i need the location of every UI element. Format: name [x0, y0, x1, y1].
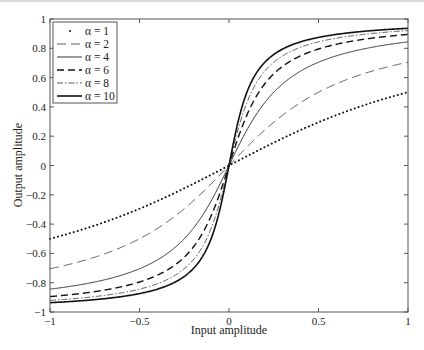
- legend-label: α = 1: [85, 25, 109, 37]
- y-axis-label: Output amplitude: [11, 123, 25, 207]
- chart: −1−0.500.51 −1−0.8−0.6−0.4−0.200.20.40.6…: [0, 0, 424, 350]
- y-tick-label: −0.2: [26, 189, 46, 201]
- y-tick-label: 1: [41, 13, 47, 25]
- y-tick-label: 0.4: [32, 101, 46, 113]
- y-tick-label: −0.4: [26, 218, 46, 230]
- legend-label: α = 6: [85, 64, 109, 76]
- y-tick-label: 0.6: [32, 72, 46, 84]
- y-tick-label: 0: [41, 160, 47, 172]
- legend-label: α = 10: [85, 90, 115, 102]
- y-tick-label: 0.8: [32, 42, 46, 54]
- legend-label: α = 4: [85, 51, 109, 63]
- legend-marker-dot: [69, 30, 71, 32]
- x-tick-label: 0.5: [312, 315, 326, 327]
- y-tick-label: −1: [34, 306, 46, 318]
- x-tick-label: 1: [405, 315, 411, 327]
- y-tick-label: −0.8: [26, 277, 46, 289]
- legend-label: α = 2: [85, 38, 109, 50]
- legend: α = 1α = 2α = 4α = 6α = 8α = 10: [53, 22, 117, 103]
- x-axis-label: Input amplitude: [191, 323, 267, 337]
- y-tick-label: −0.6: [26, 247, 46, 259]
- y-tick-label: 0.2: [32, 130, 46, 142]
- y-tick-labels: −1−0.8−0.6−0.4−0.200.20.40.60.81: [26, 13, 46, 318]
- x-tick-label: −0.5: [130, 315, 150, 327]
- legend-label: α = 8: [85, 77, 109, 89]
